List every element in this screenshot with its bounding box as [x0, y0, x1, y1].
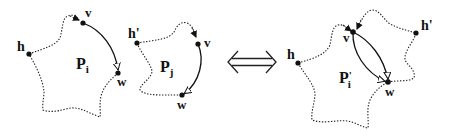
polygon-p-j: h' v w Pj	[128, 23, 211, 112]
vertex-h-prime	[134, 40, 139, 45]
label-p-j: Pj	[160, 58, 173, 78]
polygon-p-i-outline	[29, 15, 118, 117]
vertex-v	[195, 41, 200, 46]
vertex-v	[350, 29, 356, 35]
diagram-canvas: h v w Pi h' v w Pj h h'	[0, 0, 453, 136]
polygon-merge-diagram: h v w Pi h' v w Pj h h'	[0, 0, 453, 136]
label-h-prime: h'	[421, 18, 433, 33]
vertex-h	[26, 51, 31, 56]
label-p-i-prime: P'i	[339, 69, 352, 90]
edge-v-w-p-j	[184, 44, 201, 94]
label-v: v	[343, 30, 350, 45]
label-w: w	[177, 97, 187, 112]
edge-v-w-inner	[353, 32, 386, 82]
vertex-h-prime	[413, 30, 418, 35]
polygon-p-i-prime-outline	[298, 10, 416, 128]
label-v: v	[204, 35, 211, 50]
vertex-v	[80, 20, 85, 25]
label-w: w	[385, 84, 395, 99]
label-h: h	[17, 39, 25, 54]
label-w: w	[117, 74, 127, 89]
polygon-p-i: h v w Pi	[17, 5, 127, 117]
label-v: v	[85, 5, 92, 20]
label-p-i: Pi	[76, 55, 89, 75]
equivalence-double-arrow-icon	[228, 51, 276, 73]
label-h: h	[287, 47, 295, 62]
label-h-prime: h'	[128, 26, 140, 41]
vertex-h	[295, 60, 300, 65]
polygon-p-i-prime: h h' v w P'i	[287, 10, 433, 128]
